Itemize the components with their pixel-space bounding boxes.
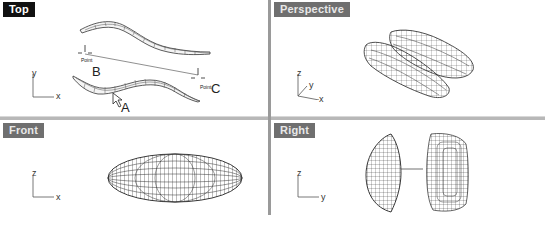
viewport-perspective[interactable]: Perspective z y x xyxy=(271,0,545,116)
axis-x-label: x xyxy=(319,94,324,104)
axis-y-label: y xyxy=(309,80,314,90)
axis-x-label: x xyxy=(56,192,61,202)
cursor-label-a: A xyxy=(121,100,130,115)
viewport-vertical-divider[interactable] xyxy=(268,0,271,215)
point-c-marker xyxy=(191,68,205,78)
viewport-front[interactable]: Front z x xyxy=(0,120,268,215)
point-b-marker xyxy=(78,45,92,53)
point-b-letter: B xyxy=(92,64,101,79)
axis-z-label: z xyxy=(32,168,37,178)
viewport-right[interactable]: Right z y xyxy=(271,120,545,215)
axis-z-label: z xyxy=(297,168,302,178)
axis-z-label: z xyxy=(297,68,302,78)
point-b-tag: Point xyxy=(81,57,93,63)
viewport-top[interactable]: Top Point B Point C xyxy=(0,0,268,116)
axis-y-label: y xyxy=(321,192,326,202)
axis-x-label: x xyxy=(56,91,61,101)
point-c-letter: C xyxy=(211,81,220,96)
viewport-horizontal-divider[interactable] xyxy=(0,116,545,120)
axis-y-label: y xyxy=(32,68,37,78)
